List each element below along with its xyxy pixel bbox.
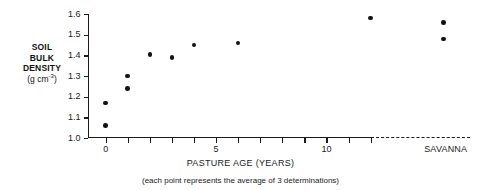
y-axis-tick: 1.2 — [84, 97, 89, 98]
x-axis-line — [88, 137, 371, 138]
x-axis-tick-label: 5 — [214, 144, 219, 154]
x-axis-tick — [106, 138, 107, 143]
y-axis-tick-label: 1.4 — [68, 50, 81, 60]
y-axis-units-text: (g cm — [27, 74, 48, 84]
y-axis-tick-label: 1.2 — [68, 91, 81, 101]
data-point — [103, 123, 108, 128]
savanna-axis-label: SAVANNA — [424, 144, 467, 154]
y-axis-tick-label: 1.1 — [68, 112, 81, 122]
data-point — [441, 20, 446, 25]
data-point — [236, 41, 241, 46]
y-axis-tick-label: 1.5 — [68, 29, 81, 39]
x-axis-tick — [326, 138, 327, 143]
data-point — [192, 43, 197, 48]
x-axis-tick-label: 10 — [321, 144, 331, 154]
chart-note: (each point represents the average of 3 … — [0, 176, 481, 185]
data-point — [148, 52, 153, 57]
y-axis-tick-label: 1.0 — [68, 133, 81, 143]
x-axis-dashed-segment — [371, 137, 470, 138]
x-axis-tick — [128, 138, 129, 143]
x-axis-tick — [304, 138, 305, 143]
y-axis-tick: 1.6 — [84, 14, 89, 15]
x-axis-tick — [216, 138, 217, 143]
x-axis-tick — [238, 138, 239, 143]
plot-area: 1.01.11.21.31.41.51.60510SAVANNA — [88, 14, 470, 138]
data-point — [125, 86, 130, 91]
data-point — [103, 101, 108, 106]
y-axis-tick-label: 1.6 — [68, 9, 81, 19]
y-axis-tick-label: 1.3 — [68, 71, 81, 81]
x-axis-tick — [349, 138, 350, 143]
x-axis-tick — [150, 138, 151, 143]
data-point — [368, 16, 373, 21]
y-axis-tick: 1.5 — [84, 35, 89, 36]
data-point — [441, 37, 446, 42]
x-axis-tick — [260, 138, 261, 143]
y-axis-units-close: ) — [54, 74, 57, 84]
data-point — [125, 74, 130, 79]
x-axis-tick — [194, 138, 195, 143]
y-axis-tick: 1.0 — [84, 138, 89, 139]
x-axis-tick — [282, 138, 283, 143]
x-axis-tick-label: 0 — [103, 144, 108, 154]
y-axis-line — [88, 14, 89, 138]
scatter-chart-figure: SOIL BULK DENSITY (g cm-3) 1.01.11.21.31… — [0, 0, 481, 190]
x-axis-tick — [172, 138, 173, 143]
y-axis-tick: 1.1 — [84, 117, 89, 118]
y-axis-tick: 1.3 — [84, 76, 89, 77]
data-point — [170, 55, 175, 60]
y-axis-tick: 1.4 — [84, 55, 89, 56]
x-axis-tick — [371, 138, 372, 143]
x-axis-title: PASTURE AGE (YEARS) — [0, 158, 481, 168]
